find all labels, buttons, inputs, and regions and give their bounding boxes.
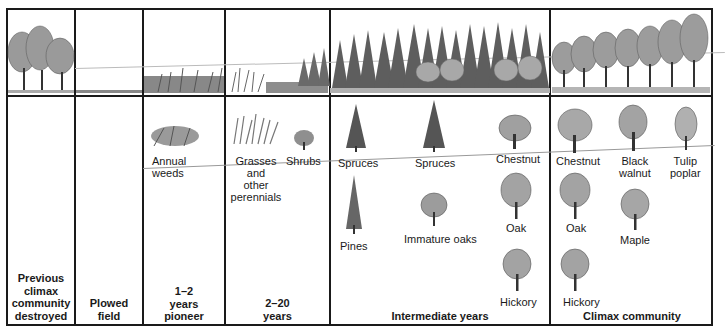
label-oak-intermediate: Oak [506,222,526,234]
stage-line: Previous [8,272,74,285]
label-line: Grasses [230,155,282,167]
label-oak-climax: Oak [566,222,586,234]
label-line: weeds [152,167,186,179]
stage-label-2-20-years: 2–20 years [226,297,329,322]
stage-line: pioneer [144,310,224,323]
annual-weeds-icon [150,122,200,148]
shrubs-icon [292,128,316,150]
chestnut-tree-icon [498,114,532,150]
panorama-divider [6,95,713,97]
label-maple: Maple [620,234,650,246]
stage-label-intermediate: Intermediate years [331,310,549,323]
label-line: Tulip [670,155,701,167]
label-spruces-1: Spruces [338,157,378,169]
stage-line: community [8,297,74,310]
label-line: perennials [230,191,282,203]
label-line: walnut [619,167,651,179]
stage-line: field [76,310,142,323]
label-immature-oaks: Immature oaks [404,233,477,245]
label-line: Annual [152,155,186,167]
label-black-walnut: Black walnut [619,155,651,179]
stage-line: 1–2 [144,285,224,298]
spruce-icon [421,100,447,154]
stage-line: Climax community [551,310,713,323]
chestnut-tree-icon [557,107,593,155]
stage-line: Intermediate years [331,310,549,323]
spruce-icon [344,104,368,154]
label-line: poplar [670,167,701,179]
label-hickory-climax: Hickory [563,296,600,308]
hickory-tree-icon [560,248,590,292]
pine-icon [344,175,364,235]
label-line: and [230,167,282,179]
stage-label-climax: Climax community [551,310,713,323]
label-chestnut-climax: Chestnut [556,155,600,167]
stage-line: years [226,310,329,323]
label-tulip-poplar: Tulip poplar [670,155,701,179]
hickory-tree-icon [502,248,532,292]
stage-line: 2–20 [226,297,329,310]
stage-line: destroyed [8,310,74,323]
stage-line: climax [8,285,74,298]
label-line: Black [619,155,651,167]
label-spruces-2: Spruces [415,157,455,169]
tulip-poplar-tree-icon [674,106,698,152]
grasses-icon [230,114,282,144]
oak-tree-icon [559,172,591,220]
label-line: other [230,179,282,191]
panorama-illustration [8,10,711,95]
label-hickory-intermediate: Hickory [500,296,537,308]
oak-tree-icon [500,172,532,220]
stage-label-plowed-field: Plowed field [76,297,142,322]
stage-line: years [144,298,224,311]
label-pines: Pines [340,240,368,252]
black-walnut-tree-icon [618,104,648,152]
label-annual-weeds: Annual weeds [152,155,186,179]
label-chestnut-intermediate: Chestnut [496,153,540,165]
immature-oak-icon [420,192,448,228]
label-shrubs: Shrubs [286,155,321,167]
label-grasses: Grasses and other perennials [230,155,282,203]
stage-label-previous-climax: Previous climax community destroyed [8,272,74,322]
stage-label-pioneer: 1–2 years pioneer [144,285,224,323]
stage-line: Plowed [76,297,142,310]
maple-tree-icon [620,188,650,232]
